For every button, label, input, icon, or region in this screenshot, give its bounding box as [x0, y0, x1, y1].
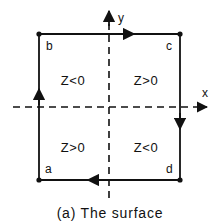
axes-group: x y	[13, 11, 208, 198]
figure-caption: (a) The surface	[57, 205, 164, 221]
vertex-dot-d	[177, 177, 182, 182]
vertex-dot-a	[36, 177, 41, 182]
y-axis-label: y	[118, 11, 124, 25]
quadrant-label-top-left: Z<0	[61, 73, 86, 88]
quadrant-label-bottom-right: Z<0	[134, 140, 159, 155]
vertex-dot-c	[177, 31, 182, 36]
figure-container: x y b c d a Z<0 Z>	[0, 0, 220, 224]
surface-diagram: x y b c d a Z<0 Z>	[0, 0, 220, 224]
quadrant-label-bottom-left: Z>0	[61, 140, 86, 155]
vertex-label-c: c	[166, 39, 172, 53]
vertex-dot-b	[36, 31, 41, 36]
vertex-label-b: b	[46, 39, 53, 53]
vertex-label-a: a	[45, 162, 52, 176]
x-axis-label: x	[202, 86, 208, 100]
vertex-label-d: d	[166, 162, 173, 176]
quadrant-label-top-right: Z>0	[134, 73, 159, 88]
